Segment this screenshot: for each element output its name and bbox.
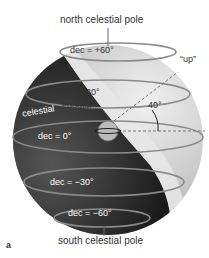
dec-label-minus30: dec = −30° <box>50 177 94 187</box>
south-pole-label: south celestial pole <box>58 235 143 246</box>
dec-label-minus60: dec = −60° <box>68 208 112 218</box>
dec-label-0: dec = 0° <box>38 131 71 141</box>
earth-icon <box>98 121 118 141</box>
up-label: “up” <box>180 54 196 64</box>
celestial-sphere-diagram <box>0 0 209 258</box>
dec-label-plus30: dec = +30° <box>56 87 100 97</box>
angle-label: 40° <box>148 100 162 110</box>
north-pole-label: north celestial pole <box>60 14 143 25</box>
panel-label: a <box>6 240 11 250</box>
dec-label-plus60: dec = +60° <box>70 45 114 55</box>
celestial-equator-label-2: equator <box>62 100 93 110</box>
